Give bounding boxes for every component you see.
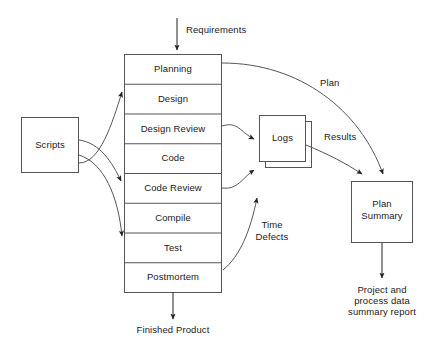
scripts-to-design-arrow [79, 92, 122, 163]
code-review-to-logs-arrow [222, 170, 254, 188]
summary-report-label-line2: process data [332, 295, 432, 306]
design-review-to-logs-arrow [222, 125, 254, 139]
summary-report-label-line3: summary report [332, 306, 432, 317]
time-defects-label-line1: Time [248, 219, 296, 230]
summary-report-label-line1: Project and [332, 284, 432, 295]
phase-planning-label: Planning [125, 63, 221, 74]
process-flow-diagram: Requirements Scripts Planning Design Des… [0, 0, 443, 349]
plan-summary-label-line2: Summary [351, 210, 413, 221]
phase-test-label: Test [125, 242, 221, 253]
phase-compile-label: Compile [125, 212, 221, 223]
scripts-to-code-review-arrow [79, 140, 121, 181]
phase-code-review-label: Code Review [125, 182, 221, 193]
plan-summary-label-line1: Plan [351, 198, 413, 209]
results-arrow [306, 145, 362, 174]
plan-flow-label: Plan [320, 77, 339, 88]
phase-design-review-label: Design Review [125, 123, 221, 134]
scripts-to-test-arrow [79, 155, 122, 236]
scripts-box-label: Scripts [21, 139, 79, 150]
phase-code-label: Code [125, 152, 221, 163]
phase-design-label: Design [125, 93, 221, 104]
phase-postmortem-label: Postmortem [125, 271, 221, 282]
results-flow-label: Results [324, 131, 356, 142]
requirements-label: Requirements [186, 24, 246, 35]
finished-product-label: Finished Product [108, 324, 238, 335]
time-defects-label-line2: Defects [248, 231, 296, 242]
logs-box-label: Logs [259, 132, 306, 143]
